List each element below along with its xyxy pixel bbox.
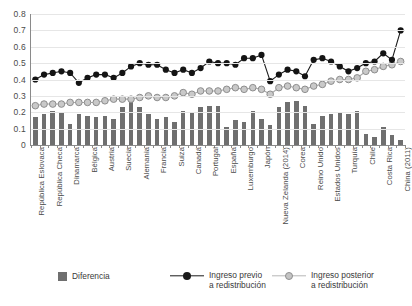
- datapoint-posterior: [215, 88, 222, 95]
- datapoint-previo: [293, 68, 299, 74]
- x-axis-label: Francia: [159, 147, 168, 173]
- datapoint-previo: [102, 71, 108, 77]
- x-axis-label: Japón: [263, 147, 272, 168]
- datapoint-posterior: [310, 83, 317, 90]
- datapoint-previo: [354, 65, 360, 71]
- datapoint-posterior: [67, 99, 74, 106]
- datapoint-posterior: [241, 86, 248, 93]
- datapoint-posterior: [206, 88, 213, 95]
- datapoint-posterior: [276, 84, 283, 91]
- x-axis-label: Dinamarca: [72, 147, 81, 185]
- x-axis-label: República Eslovaca: [37, 147, 46, 216]
- datapoint-posterior: [49, 101, 56, 108]
- datapoint-posterior: [232, 84, 239, 91]
- line-posterior: [35, 61, 400, 105]
- datapoint-previo: [76, 80, 82, 86]
- x-axis-label: República Checa: [55, 147, 64, 206]
- datapoint-previo: [302, 73, 308, 79]
- y-axis-tick-label: 0.5: [0, 58, 26, 68]
- datapoint-posterior: [302, 86, 309, 93]
- legend-line-marker-black-icon: [170, 271, 204, 281]
- datapoint-previo: [119, 70, 125, 76]
- x-axis-label: Nueva Zelanda (2014): [281, 147, 290, 225]
- chart-legend: Diferencia Ingreso previo a redistribuci…: [30, 266, 405, 300]
- legend-label-line1: Diferencia: [72, 271, 110, 281]
- datapoint-posterior: [32, 102, 39, 109]
- x-axis-label: Alemania: [142, 147, 151, 179]
- datapoint-previo: [250, 55, 256, 61]
- datapoint-posterior: [84, 99, 91, 106]
- x-axis-label: Corea: [298, 147, 307, 168]
- legend-label-line1: Ingreso previo: [209, 270, 262, 280]
- plot-area: [30, 14, 405, 146]
- y-axis-tick-label: 0.1: [0, 124, 26, 134]
- gridline: [31, 63, 405, 64]
- x-axis-labels: República EslovacaRepública ChecaDinamar…: [30, 147, 405, 252]
- x-axis-label: Suecia: [124, 147, 133, 171]
- datapoint-previo: [284, 67, 290, 73]
- datapoint-posterior: [371, 66, 378, 73]
- datapoint-previo: [311, 57, 317, 63]
- gridline: [31, 30, 405, 31]
- datapoint-previo: [345, 68, 351, 74]
- datapoint-posterior: [102, 97, 109, 104]
- datapoint-previo: [319, 55, 325, 61]
- x-axis-label: Chile: [368, 147, 377, 165]
- x-axis-label: Estados Unidos: [333, 147, 342, 202]
- datapoint-previo: [180, 67, 186, 73]
- x-axis-label: Turquía: [350, 147, 359, 174]
- datapoint-posterior: [93, 99, 100, 106]
- gridline: [31, 145, 405, 146]
- datapoint-posterior: [223, 86, 230, 93]
- datapoint-previo: [276, 71, 282, 77]
- datapoint-posterior: [363, 68, 370, 75]
- datapoint-previo: [171, 70, 177, 76]
- x-axis-label: Luxemburgo: [246, 147, 255, 190]
- y-axis-tick-label: 0: [0, 140, 26, 150]
- gridline: [31, 80, 405, 81]
- x-axis-label: Bélgica: [90, 147, 99, 173]
- legend-item-diferencia: Diferencia: [58, 271, 110, 281]
- legend-label-line1: Ingreso posterior: [311, 270, 374, 280]
- datapoint-previo: [189, 70, 195, 76]
- datapoint-posterior: [41, 101, 48, 108]
- datapoint-previo: [337, 63, 343, 69]
- datapoint-posterior: [258, 86, 265, 93]
- datapoint-previo: [380, 50, 386, 56]
- x-axis-label: Portugal: [211, 147, 220, 176]
- x-axis-label: España: [229, 147, 238, 173]
- datapoint-previo: [67, 70, 73, 76]
- y-axis-tick-label: 0.4: [0, 75, 26, 85]
- y-axis-tick-label: 0.3: [0, 91, 26, 101]
- datapoint-previo: [241, 55, 247, 61]
- legend-item-ingreso-posterior: Ingreso posterior a redistribución: [272, 270, 374, 291]
- x-axis-label: Suiza: [177, 147, 186, 167]
- datapoint-posterior: [293, 84, 300, 91]
- legend-label-ingreso-previo: Ingreso previo a redistribución: [209, 270, 266, 291]
- legend-label-line2: a redistribución: [209, 280, 266, 290]
- datapoint-previo: [389, 57, 395, 63]
- gridline: [31, 47, 405, 48]
- gridline: [31, 129, 405, 130]
- datapoint-previo: [258, 52, 264, 58]
- datapoint-previo: [58, 68, 64, 74]
- x-axis-label: Canadá: [194, 147, 203, 174]
- legend-label-diferencia: Diferencia: [72, 271, 110, 281]
- datapoint-previo: [50, 70, 56, 76]
- gridline: [31, 112, 405, 113]
- y-axis-tick-label: 0.6: [0, 42, 26, 52]
- legend-label-line2: a redistribución: [311, 280, 374, 290]
- datapoint-posterior: [58, 101, 65, 108]
- legend-line-marker-gray-icon: [272, 271, 306, 281]
- legend-swatch-square-icon: [58, 272, 67, 281]
- datapoint-posterior: [76, 99, 83, 106]
- datapoint-posterior: [284, 83, 291, 90]
- datapoint-posterior: [197, 88, 204, 95]
- x-axis-label: China (2011): [403, 147, 412, 192]
- legend-label-ingreso-posterior: Ingreso posterior a redistribución: [311, 270, 374, 291]
- datapoint-posterior: [319, 81, 326, 88]
- datapoint-previo: [198, 65, 204, 71]
- y-axis-tick-label: 0.2: [0, 107, 26, 117]
- x-axis-label: Austria: [107, 147, 116, 171]
